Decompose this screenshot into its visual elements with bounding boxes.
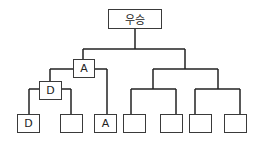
leaf-box-4	[123, 114, 146, 133]
quarterfinal-left-label: D	[46, 84, 54, 97]
leaf-label-3: A	[102, 117, 110, 130]
leaf-box-1: D	[17, 114, 40, 133]
champion-box: 우승	[108, 9, 162, 29]
leaf-label-1: D	[24, 117, 32, 130]
bracket-diagram: 우승 A D D A	[0, 0, 260, 143]
leaf-box-5	[160, 114, 183, 133]
semifinal-left-box: A	[73, 59, 95, 78]
leaf-box-2	[60, 114, 83, 133]
leaf-box-3: A	[94, 114, 117, 133]
leaf-box-7	[224, 114, 247, 133]
quarterfinal-left-box: D	[39, 81, 62, 100]
champion-label: 우승	[125, 11, 145, 27]
semifinal-left-label: A	[80, 62, 88, 75]
leaf-box-6	[189, 114, 212, 133]
